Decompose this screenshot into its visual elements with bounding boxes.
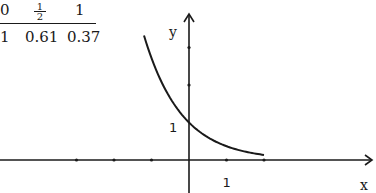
y-tick <box>187 46 190 49</box>
tick-labels: 11 <box>169 120 231 191</box>
x-tick <box>112 158 115 161</box>
y-tick-label: 1 <box>169 120 177 135</box>
exponential-plot: x y 11 <box>0 0 376 193</box>
y-axis-label: y <box>168 24 177 40</box>
x-tick-label: 1 <box>223 175 231 190</box>
x-tick <box>150 158 153 161</box>
x-tick <box>225 158 228 161</box>
x-tick <box>262 158 265 161</box>
x-axis-label: x <box>360 177 368 193</box>
curve-exp-neg-x <box>144 36 264 155</box>
ticks <box>75 46 266 162</box>
axes <box>0 14 372 193</box>
x-tick <box>75 158 78 161</box>
y-tick <box>187 83 190 86</box>
